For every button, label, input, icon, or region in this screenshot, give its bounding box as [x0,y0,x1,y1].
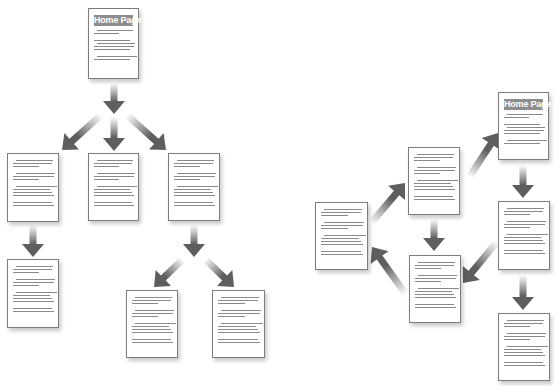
text-line [415,278,456,279]
text-line [321,225,363,226]
text-line [132,329,171,330]
text-line [132,342,173,343]
network-page-d [498,201,550,270]
text-line [16,160,53,161]
text-line [415,297,456,298]
text-line [94,189,130,190]
hierarchy-page-l2c [168,153,220,221]
text-line [504,124,540,125]
text-line [94,179,119,180]
text-line [418,275,457,276]
text-line [94,195,134,196]
text-line [504,362,543,363]
text-line [321,251,361,252]
text-line [321,244,363,245]
text-line [417,180,458,181]
text-line [504,214,530,215]
arrow-to-l2a [62,113,102,150]
site-structure-diagram: Home PageHome Page [0,0,559,386]
text-line [414,157,453,158]
text-line [417,154,454,155]
text-line [414,183,451,184]
text-line [504,117,529,118]
arrow-c-to-b [369,183,405,224]
text-line [135,310,174,311]
text-line [415,294,454,295]
text-line [504,130,544,131]
arrow-to-l3c [204,258,234,288]
text-line [13,272,39,273]
text-line [174,163,213,164]
text-line [13,311,54,312]
text-line [94,46,134,47]
text-line [414,186,453,187]
text-line [177,173,216,174]
network-page-f [498,313,550,381]
text-line [417,167,456,168]
arrow-e-to-c [371,247,408,295]
text-line [218,300,258,301]
text-line [218,339,258,340]
text-line [13,192,52,193]
text-line [507,333,546,334]
text-line [414,196,453,197]
text-line [94,163,132,164]
text-line [13,282,54,283]
arrow-l2c-down [183,226,205,257]
text-line [504,326,530,327]
text-line [321,212,361,213]
text-line [415,291,452,292]
text-line [507,140,547,141]
network-page-e [409,255,461,323]
text-line [507,127,545,128]
text-line [415,268,441,269]
text-line [174,192,213,193]
text-line [174,195,215,196]
text-line [174,179,200,180]
text-line [504,253,545,254]
text-line [221,310,261,311]
text-line [415,281,441,282]
text-line [504,365,545,366]
text-line [94,202,132,203]
text-line [218,313,260,314]
text-line [132,339,171,340]
arrow-home-to-d [512,166,534,198]
text-line [13,166,39,167]
network-page-b [408,147,460,215]
text-line [504,339,530,340]
text-line [132,303,158,304]
text-line [97,173,135,174]
text-line [504,237,541,238]
arrow-l2a-to-l3a [22,226,44,257]
text-line [414,170,455,171]
text-line [324,209,362,210]
text-line [218,342,260,343]
text-line [504,211,543,212]
text-line [135,323,176,324]
hierarchy-page-l3b [126,290,178,358]
text-line [94,176,134,177]
hierarchy-page-l3c [212,290,265,358]
arrow-b-to-home [467,133,500,178]
text-line [504,243,545,244]
text-line [94,33,119,34]
text-line [321,215,348,216]
text-line [415,307,456,308]
text-line [218,316,245,317]
text-line [504,336,545,337]
text-line [507,346,548,347]
arrow-to-l2b [103,118,125,151]
text-line [13,195,54,196]
text-line [16,186,57,187]
text-line [94,166,119,167]
text-line [507,114,543,115]
text-line [16,292,57,293]
text-line [218,303,245,304]
text-line [97,186,137,187]
text-line [13,269,52,270]
text-line [132,316,158,317]
text-line [321,241,361,242]
text-line [507,208,544,209]
text-line [94,205,134,206]
